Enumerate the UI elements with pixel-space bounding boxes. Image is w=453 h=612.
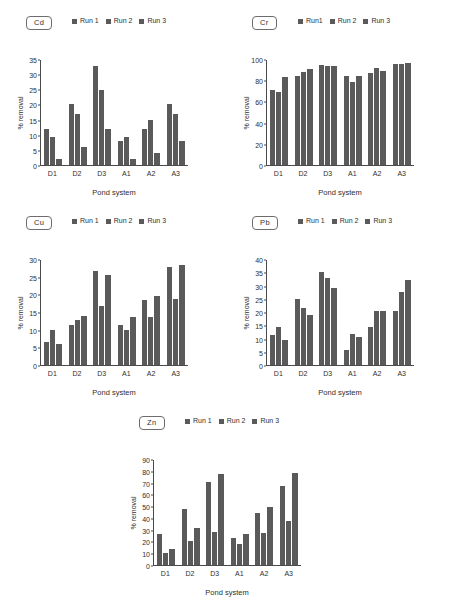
bar-group-d1 [44, 260, 62, 365]
y-axis-ticks-zn: 0102030405060708090 [131, 460, 153, 566]
legend-item-cd-3: Run 3 [139, 17, 166, 25]
legend-item-cu-1: Run 1 [72, 217, 99, 225]
x-tick-label: A3 [163, 370, 188, 378]
x-axis-line [266, 165, 414, 166]
legend-label: Run 2 [338, 17, 357, 25]
bar [81, 147, 87, 165]
bar-group-a3 [393, 260, 411, 365]
bar [179, 141, 185, 165]
bar-group-d2 [295, 260, 313, 365]
legend-item-cr-2: Run 2 [330, 17, 357, 25]
bar-group-a3 [167, 260, 185, 365]
bar-group-a2 [255, 460, 273, 565]
x-axis-label-cu: Pond system [40, 388, 188, 397]
legend-swatch-icon [106, 219, 111, 224]
bar-group-a2 [368, 60, 386, 165]
bar-group-d2 [182, 460, 200, 565]
bar [56, 344, 62, 365]
y-tick-label: 70 [142, 480, 150, 487]
axes-cu [40, 260, 188, 366]
legend-item-cu-2: Run 2 [106, 217, 133, 225]
x-tick-label: D2 [291, 370, 316, 378]
legend-cd: Run 1Run 2Run 3 [72, 17, 166, 25]
x-axis-line [153, 565, 301, 566]
x-axis-label-pb: Pond system [266, 388, 414, 397]
x-axis-label-cr: Pond system [266, 188, 414, 197]
y-tick-label: 30 [29, 257, 37, 264]
bar-group-d3 [206, 460, 224, 565]
x-tick-label: A2 [365, 170, 390, 178]
bar [380, 311, 386, 365]
x-tick-label: A3 [389, 170, 414, 178]
plot-area-cr: % removal020406080100D1D2D3A1A2A3Pond sy… [226, 34, 453, 210]
legend-item-zn-2: Run 2 [219, 417, 246, 425]
bar [130, 159, 136, 165]
bar-group-a2 [142, 260, 160, 365]
bar [292, 473, 298, 565]
bar-group-a1 [118, 60, 136, 165]
bar-group-d2 [295, 60, 313, 165]
plot-area-cu: % removal051015202530D1D2D3A1A2A3Pond sy… [0, 234, 226, 410]
chart-panel-cd: CdRun 1Run 2Run 3% removal05101520253035… [0, 14, 226, 210]
legend-label: Run 2 [114, 217, 133, 225]
bar [179, 265, 185, 365]
x-axis-ticks-cu: D1D2D3A1A2A3 [40, 370, 188, 378]
bar [267, 507, 273, 565]
bar [331, 288, 337, 365]
bar-group-d1 [44, 60, 62, 165]
y-tick-label: 80 [255, 78, 263, 85]
bars-container-cr [267, 60, 414, 165]
y-tick-label: 0 [259, 163, 263, 170]
y-tick-label: 0 [33, 363, 37, 370]
x-tick-label: A3 [389, 370, 414, 378]
y-tick-label: 15 [29, 310, 37, 317]
bar-group-a2 [142, 60, 160, 165]
x-axis-ticks-cd: D1D2D3A1A2A3 [40, 170, 188, 178]
legend-swatch-icon [139, 219, 144, 224]
plot-area-cd: % removal05101520253035D1D2D3A1A2A3Pond … [0, 34, 226, 210]
x-tick-label: A2 [139, 170, 164, 178]
panel-header-cd: CdRun 1Run 2Run 3 [0, 14, 226, 34]
bar [243, 534, 249, 565]
chart-panel-cu: CuRun 1Run 2Run 3% removal051015202530D1… [0, 214, 226, 410]
legend-label: Run 3 [371, 17, 390, 25]
y-tick-label: 40 [255, 120, 263, 127]
legend-swatch-icon [363, 19, 368, 24]
y-tick-label: 10 [29, 132, 37, 139]
legend-label: Run 3 [147, 217, 166, 225]
axes-cd [40, 60, 188, 166]
bar [282, 77, 288, 165]
panel-header-cr: CrRun1Run 2Run 3 [226, 14, 453, 34]
legend-item-cr-1: Run1 [298, 17, 323, 25]
x-tick-label: D1 [266, 170, 291, 178]
legend-swatch-icon [332, 219, 337, 224]
y-tick-label: 25 [29, 87, 37, 94]
legend-item-pb-1: Run 1 [298, 217, 325, 225]
legend-item-cd-1: Run 1 [72, 17, 99, 25]
y-tick-label: 0 [259, 363, 263, 370]
x-axis-line [40, 365, 188, 366]
legend-label: Run 3 [260, 417, 279, 425]
bar-group-d2 [69, 60, 87, 165]
x-tick-label: A1 [114, 370, 139, 378]
bar-group-d3 [319, 260, 337, 365]
y-tick-label: 100 [251, 57, 263, 64]
legend-item-pb-2: Run 2 [332, 217, 359, 225]
x-tick-label: D3 [315, 170, 340, 178]
legend-swatch-icon [219, 419, 224, 424]
x-axis-label-cd: Pond system [40, 188, 188, 197]
y-tick-label: 40 [142, 515, 150, 522]
y-tick-label: 20 [255, 310, 263, 317]
y-tick-label: 35 [255, 270, 263, 277]
y-tick-label: 15 [29, 117, 37, 124]
panel-header-zn: ZnRun 1Run 2Run 3 [113, 414, 340, 434]
x-tick-label: D2 [65, 170, 90, 178]
axes-cr [266, 60, 414, 166]
bar-group-a2 [368, 260, 386, 365]
y-tick-label: 30 [255, 283, 263, 290]
legend-label: Run 3 [373, 217, 392, 225]
x-tick-label: A1 [227, 570, 252, 578]
bar [105, 129, 111, 165]
bar-group-d1 [270, 60, 288, 165]
y-tick-label: 60 [255, 99, 263, 106]
